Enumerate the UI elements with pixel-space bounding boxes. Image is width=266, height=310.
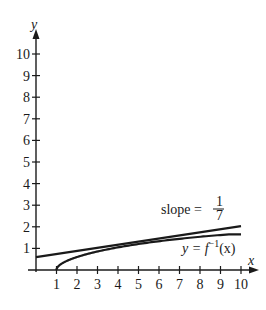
y-tick-label: 2 xyxy=(23,220,30,235)
y-tick-label: 5 xyxy=(23,155,30,170)
curve-label-sup: −1 xyxy=(209,238,220,249)
curve-label-suffix: (x) xyxy=(219,241,236,257)
slope-text: slope = xyxy=(161,202,202,217)
y-axis-label: y xyxy=(29,17,38,32)
y-tick-label: 10 xyxy=(16,47,30,62)
slope-annotation: slope = 1 7 xyxy=(161,194,224,223)
y-tick-label: 7 xyxy=(23,112,30,127)
y-tick-label: 6 xyxy=(23,133,30,148)
x-tick-label: 4 xyxy=(115,277,122,292)
x-tick-label: 9 xyxy=(217,277,224,292)
curve-label: y = f−1(x) xyxy=(180,238,236,257)
x-tick-label: 10 xyxy=(234,277,248,292)
x-axis-label: x xyxy=(247,253,255,268)
graph-figure: 12345678910 12345678910 y x slope = 1 7 … xyxy=(0,0,266,310)
x-tick-label: 3 xyxy=(94,277,101,292)
y-tick-labels: 12345678910 xyxy=(16,47,30,256)
y-tick-label: 8 xyxy=(23,90,30,105)
y-tick-label: 4 xyxy=(23,177,30,192)
y-tick-label: 3 xyxy=(23,198,30,213)
curve-label-prefix: y = f xyxy=(180,241,211,256)
slope-denominator: 7 xyxy=(216,208,223,223)
y-tick-label: 9 xyxy=(23,69,30,84)
x-tick-label: 5 xyxy=(135,277,142,292)
x-tick-label: 2 xyxy=(74,277,81,292)
x-tick-label: 1 xyxy=(53,277,60,292)
axes xyxy=(28,36,252,272)
curve-label-text: y = f−1(x) xyxy=(180,238,236,257)
slope-numerator: 1 xyxy=(216,194,223,209)
x-tick-label: 6 xyxy=(156,277,163,292)
y-tick-label: 1 xyxy=(23,241,30,256)
x-tick-labels: 12345678910 xyxy=(53,277,248,292)
x-tick-label: 8 xyxy=(197,277,204,292)
x-tick-label: 7 xyxy=(176,277,183,292)
